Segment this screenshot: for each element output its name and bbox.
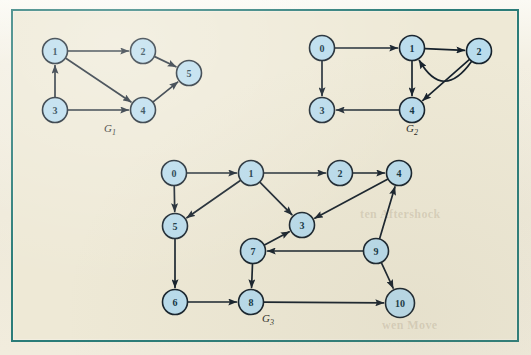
- node-label-G3-1: 1: [249, 168, 254, 179]
- node-G2-0[interactable]: 0: [310, 36, 335, 61]
- node-label-G3-3: 3: [300, 220, 305, 231]
- node-label-G3-7: 7: [251, 246, 256, 257]
- node-label-G1-1: 1: [53, 46, 58, 57]
- edge-G3-9-to-10: [381, 263, 393, 288]
- node-label-G3-4: 4: [397, 168, 402, 179]
- node-G3-9[interactable]: 9: [364, 239, 389, 264]
- node-label-G1-3: 3: [53, 105, 58, 116]
- edge-G1-1-to-4: [66, 58, 131, 102]
- node-label-G3-9: 9: [374, 246, 379, 257]
- graph-caption-G1: G1: [104, 122, 116, 137]
- node-label-G3-8: 8: [249, 297, 254, 308]
- edge-G1-4-to-5: [153, 82, 178, 102]
- node-G3-6[interactable]: 6: [163, 290, 188, 315]
- edge-G2-2-to-4: [423, 60, 469, 101]
- node-label-G1-5: 5: [187, 68, 192, 79]
- node-label-G1-4: 4: [141, 105, 146, 116]
- node-G3-3[interactable]: 3: [290, 213, 315, 238]
- node-G1-4[interactable]: 4: [131, 98, 156, 123]
- node-G3-2[interactable]: 2: [328, 161, 353, 186]
- graph-caption-G2: G2: [406, 122, 418, 137]
- node-G2-3[interactable]: 3: [310, 98, 335, 123]
- node-label-G2-0: 0: [320, 43, 325, 54]
- edge-G2-1-to-2: [425, 49, 465, 51]
- node-label-G3-0: 0: [172, 168, 177, 179]
- edge-G3-9-to-4: [380, 187, 395, 239]
- node-G3-7[interactable]: 7: [241, 239, 266, 264]
- node-G2-4[interactable]: 4: [400, 98, 425, 123]
- edge-G3-4-to-3: [315, 179, 388, 218]
- nodes-layer: 1253401234012453796810: [43, 36, 492, 318]
- node-label-G3-2: 2: [338, 168, 343, 179]
- node-G3-10[interactable]: 10: [386, 289, 415, 318]
- node-label-G2-4: 4: [410, 105, 415, 116]
- node-G3-4[interactable]: 4: [387, 161, 412, 186]
- node-G3-0[interactable]: 0: [162, 161, 187, 186]
- node-label-G1-2: 2: [141, 46, 146, 57]
- node-G1-2[interactable]: 2: [131, 39, 156, 64]
- node-G1-3[interactable]: 3: [43, 98, 68, 123]
- node-label-G3-6: 6: [173, 297, 178, 308]
- edge-G3-1-to-3: [260, 182, 292, 214]
- node-label-G2-1: 1: [410, 43, 415, 54]
- edge-G3-7-to-8: [252, 264, 253, 288]
- node-label-G2-3: 3: [320, 105, 325, 116]
- graph-drawing-layer: 1253401234012453796810 G1G2G3: [0, 0, 531, 355]
- node-G3-5[interactable]: 5: [163, 214, 188, 239]
- graph-caption-G3: G3: [262, 312, 274, 327]
- node-label-G3-5: 5: [173, 221, 178, 232]
- node-G2-1[interactable]: 1: [400, 36, 425, 61]
- node-G1-5[interactable]: 5: [177, 61, 202, 86]
- node-label-G2-2: 2: [477, 46, 482, 57]
- edge-G3-1-to-5: [187, 180, 240, 217]
- node-G3-1[interactable]: 1: [239, 161, 264, 186]
- node-G3-8[interactable]: 8: [239, 290, 264, 315]
- node-G2-2[interactable]: 2: [467, 39, 492, 64]
- figure-container: ten Aftershockwen Move 12534012340124537…: [0, 0, 531, 355]
- edge-G3-8-to-10: [264, 302, 384, 303]
- node-G1-1[interactable]: 1: [43, 39, 68, 64]
- edge-G1-2-to-5: [155, 57, 176, 67]
- edge-G3-7-to-3: [264, 232, 289, 245]
- node-label-G3-10: 10: [395, 298, 405, 309]
